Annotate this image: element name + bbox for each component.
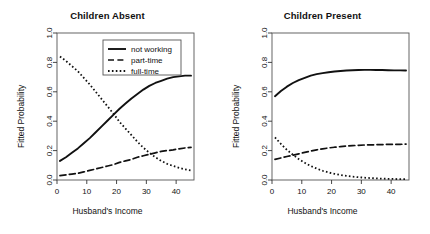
x-tick-label: 40 [172,187,181,196]
x-tick-label: 0 [270,187,275,196]
y-tick-label: 0.0 [45,174,54,186]
y-tick-label: 0.6 [260,86,269,98]
plot-area: 0102030400.00.20.40.60.81.0not workingpa… [0,0,215,234]
plot-area: 0102030400.00.20.40.60.81.0 [215,0,430,234]
series-line-not-working [60,76,191,161]
series-line-part-time [60,147,191,175]
y-tick-label: 0.0 [260,174,269,186]
x-tick-label: 0 [55,187,60,196]
plot-frame [272,33,409,180]
y-tick-label: 1.0 [260,27,269,39]
panel-children-absent: Children Absent Husband's Income Fitted … [0,0,215,234]
x-tick-label: 30 [357,187,366,196]
x-tick-label: 40 [387,187,396,196]
x-tick-label: 10 [297,187,306,196]
x-tick-label: 20 [327,187,336,196]
y-tick-label: 0.4 [260,115,269,127]
x-tick-label: 10 [82,187,91,196]
panel-children-present: Children Present Husband's Income Fitted… [215,0,430,234]
x-tick-label: 30 [142,187,151,196]
y-tick-label: 0.2 [260,144,269,156]
y-tick-label: 0.2 [45,144,54,156]
figure-canvas: Children Absent Husband's Income Fitted … [0,0,430,234]
legend-label: full-time [131,67,160,76]
y-tick-label: 0.4 [45,115,54,127]
y-tick-label: 1.0 [45,27,54,39]
y-tick-label: 0.8 [260,56,269,68]
y-tick-label: 0.6 [45,86,54,98]
legend-label: not working [131,45,172,54]
series-line-not-working [275,70,406,96]
x-tick-label: 20 [112,187,121,196]
legend-label: part-time [131,56,163,65]
y-tick-label: 0.8 [45,56,54,68]
